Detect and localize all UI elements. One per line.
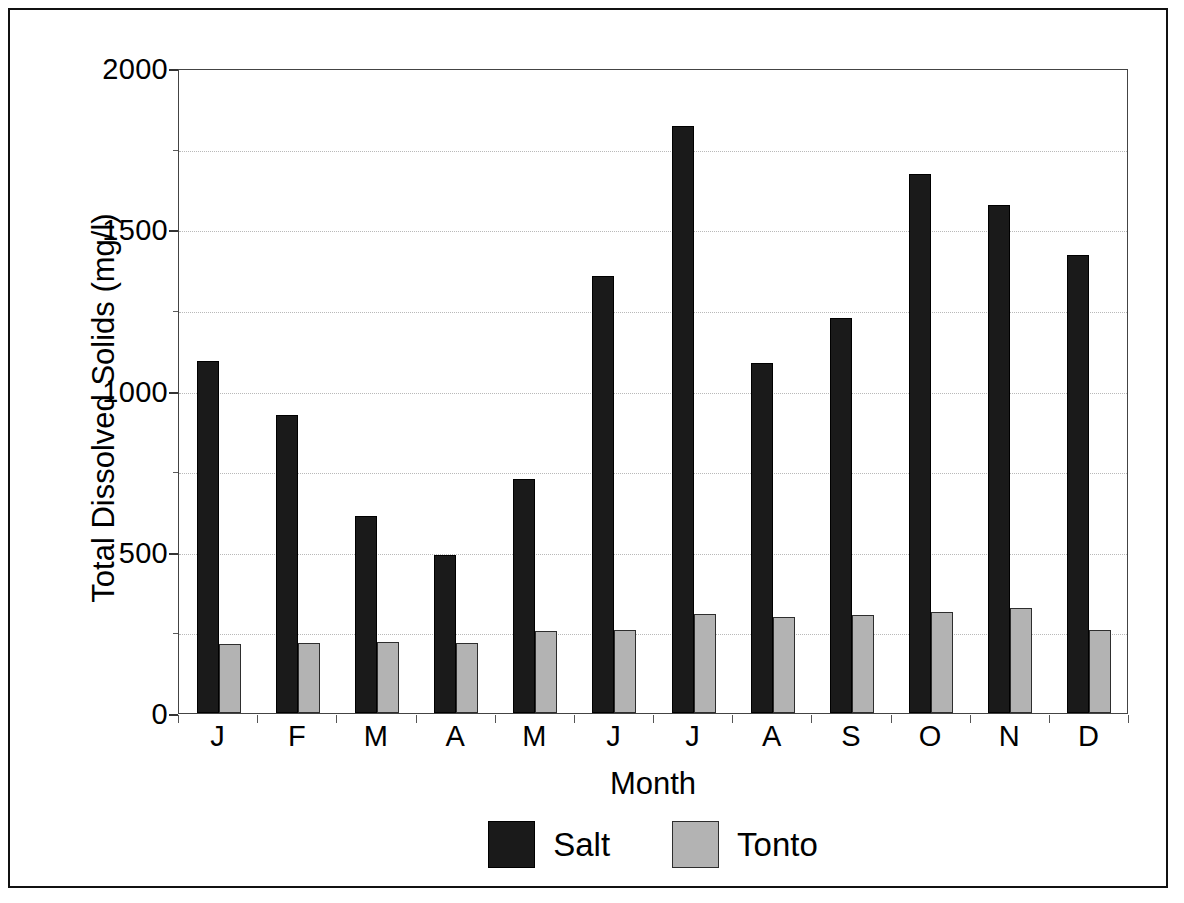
y-axis-tick-mark (169, 392, 178, 394)
y-axis-tick-mark (169, 69, 178, 71)
bar-salt-S-8 (830, 318, 852, 713)
bar-salt-A-3 (434, 555, 456, 713)
x-axis-tick-label: A (762, 722, 781, 751)
bar-salt-N-10 (988, 205, 1010, 713)
y-axis-tick-label: 500 (119, 538, 168, 567)
bar-tonto-M-4 (535, 631, 557, 713)
x-axis-tick-label: S (841, 722, 860, 751)
y-axis-tick-label: 1500 (102, 216, 168, 245)
bar-salt-J-6 (672, 126, 694, 713)
y-axis-tick-label: 1000 (102, 377, 168, 406)
y-axis-tick-mark (169, 714, 178, 716)
y-axis-tick-mark (169, 553, 178, 555)
bar-tonto-A-3 (456, 643, 478, 713)
bar-salt-J-5 (592, 276, 614, 713)
legend-entry-tonto: Tonto (672, 821, 818, 868)
x-axis-title: Month (178, 766, 1128, 802)
bar-salt-J-0 (197, 361, 219, 713)
bar-tonto-F-1 (298, 643, 320, 713)
x-axis-tick-label: F (288, 722, 306, 751)
y-axis-tick-label: 2000 (102, 55, 168, 84)
x-axis-tick-label: N (999, 722, 1020, 751)
x-axis-tick-label: D (1078, 722, 1099, 751)
x-axis-tick-label: J (210, 722, 225, 751)
bar-tonto-J-6 (694, 614, 716, 713)
gridline (179, 393, 1127, 394)
x-axis-tick-label: M (522, 722, 546, 751)
chart-legend: SaltTonto (178, 812, 1128, 876)
gridline (179, 231, 1127, 232)
bar-tonto-S-8 (852, 615, 874, 713)
gridline (179, 312, 1127, 313)
bar-tonto-D-11 (1089, 630, 1111, 713)
gridline (179, 554, 1127, 555)
bar-salt-D-11 (1067, 255, 1089, 713)
bar-salt-O-9 (909, 174, 931, 713)
bar-tonto-A-7 (773, 617, 795, 713)
legend-entry-salt: Salt (488, 821, 610, 868)
y-axis-tick-labels: 0500100015002000 (60, 0, 168, 903)
bar-tonto-N-10 (1010, 608, 1032, 713)
y-axis-tick-label: 0 (152, 700, 168, 729)
x-axis-tick-label: J (685, 722, 700, 751)
bar-tonto-J-5 (614, 630, 636, 713)
bar-salt-A-7 (751, 363, 773, 713)
gridline (179, 473, 1127, 474)
salt-swatch (488, 821, 535, 868)
legend-label: Tonto (737, 828, 818, 861)
x-axis-tick-labels: JFMAMJJASOND (178, 722, 1128, 762)
x-axis-tick-label: A (445, 722, 464, 751)
bar-tonto-J-0 (219, 644, 241, 713)
bar-tonto-O-9 (931, 612, 953, 713)
bar-salt-F-1 (276, 415, 298, 713)
legend-label: Salt (553, 828, 610, 861)
figure-canvas: Total Dissolved Solids (mg/l) 0500100015… (0, 0, 1184, 903)
x-axis-tick-label: O (919, 722, 942, 751)
bar-salt-M-4 (513, 479, 535, 713)
x-axis-tick-label: J (606, 722, 621, 751)
x-axis-tick-mark (1128, 715, 1129, 723)
plot-area (178, 69, 1128, 714)
tonto-swatch (672, 821, 719, 868)
x-axis-tick-label: M (364, 722, 388, 751)
gridline (179, 151, 1127, 152)
bar-tonto-M-2 (377, 642, 399, 713)
bar-salt-M-2 (355, 516, 377, 713)
gridline (179, 634, 1127, 635)
y-axis-tick-mark (169, 230, 178, 232)
